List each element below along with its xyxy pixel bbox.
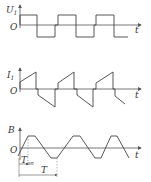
- voltage-x-label: t: [135, 25, 139, 35]
- voltage-y-label: U1: [6, 5, 17, 16]
- current-x-label: t: [135, 90, 139, 100]
- current-origin-label: O: [10, 86, 18, 96]
- voltage-panel: U1 O t: [6, 5, 141, 37]
- waveform-diagram: U1 O t I1 O t B O t Ton T: [0, 0, 151, 182]
- flux-y-label: B: [7, 125, 15, 135]
- flux-trapezoid-wave: [18, 136, 129, 158]
- voltage-square-wave: [20, 15, 128, 37]
- voltage-origin-label: O: [10, 22, 18, 32]
- waveform-svg: U1 O t I1 O t B O t Ton T: [0, 0, 151, 182]
- flux-panel: B O t Ton T: [7, 125, 141, 177]
- t-on-label: Ton: [21, 155, 34, 166]
- current-y-label: I1: [6, 70, 14, 81]
- flux-origin-label: O: [10, 145, 18, 155]
- current-sawtooth-wave: [20, 72, 125, 107]
- flux-x-label: t: [135, 150, 139, 160]
- current-panel: I1 O t: [6, 68, 141, 107]
- period-label: T: [41, 165, 48, 175]
